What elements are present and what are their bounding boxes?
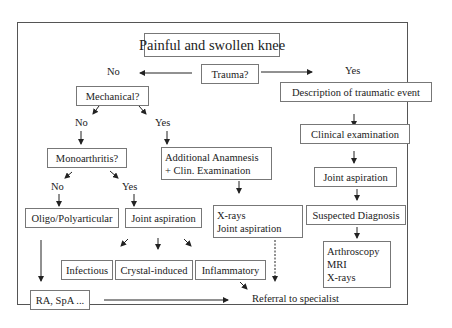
node-additional-anamnesis: Additional Anamnesis + Clin. Examination (161, 147, 272, 180)
node-imaging: Arthroscopy MRI X-rays (323, 241, 391, 288)
node-ra-spa: RA, SpA ... (30, 290, 90, 310)
label-mech-yes: Yes (155, 117, 170, 129)
node-referral: Referral to specialist (252, 293, 339, 305)
label-trauma-no: No (107, 66, 120, 78)
imaging-line-2: MRI (327, 258, 347, 271)
node-infectious: Infectious (61, 260, 113, 280)
node-joint-aspiration-right: Joint aspiration (314, 167, 397, 187)
label-trauma-yes: Yes (345, 65, 360, 77)
xrays-line-1: X-rays (217, 209, 246, 222)
imaging-line-1: Arthroscopy (327, 245, 380, 258)
node-suspected-diagnosis: Suspected Diagnosis (306, 205, 406, 225)
node-crystal-induced: Crystal-induced (115, 260, 193, 280)
node-clinical-examination: Clinical examination (300, 124, 410, 144)
imaging-line-3: X-rays (327, 271, 356, 284)
node-xrays-joint-aspiration: X-rays Joint aspiration (213, 205, 303, 238)
node-description: Description of traumatic event (280, 82, 432, 102)
title-box: Painful and swollen knee (144, 33, 280, 57)
label-mono-yes: Yes (122, 181, 137, 193)
additional-line-2: + Clin. Examination (165, 164, 251, 177)
node-mechanical: Mechanical? (76, 86, 149, 106)
node-oligo-polyarticular: Oligo/Polyarticular (25, 208, 119, 228)
label-mono-no: No (51, 181, 64, 193)
label-mech-no: No (75, 117, 88, 129)
node-inflammatory: Inflammatory (195, 260, 266, 280)
node-monoarthritis: Monoarthritis? (47, 148, 127, 168)
node-trauma: Trauma? (201, 64, 259, 84)
additional-line-1: Additional Anamnesis (165, 151, 259, 164)
node-joint-aspiration-mid: Joint aspiration (125, 208, 202, 228)
xrays-line-2: Joint aspiration (217, 222, 281, 235)
